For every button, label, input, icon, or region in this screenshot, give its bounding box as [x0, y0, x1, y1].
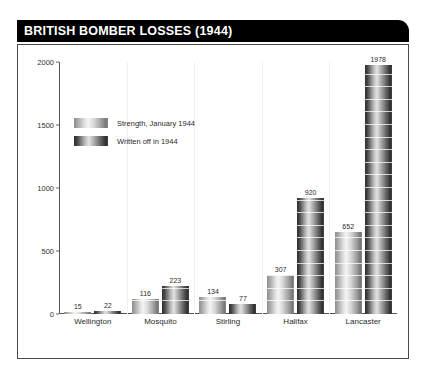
legend-label: Strength, January 1944 [117, 119, 195, 128]
bar-lancaster-series1[interactable] [365, 65, 392, 314]
bar-value-label: 223 [170, 277, 182, 284]
bar-halifax-series1[interactable] [297, 198, 324, 314]
bar-gridline [297, 212, 324, 213]
bar-gridline [297, 300, 324, 301]
bar-gridline [365, 162, 392, 163]
bar-gridline [365, 174, 392, 175]
bar-stirling-series1[interactable] [229, 304, 256, 314]
bar-lancaster-series0[interactable] [335, 232, 362, 314]
bar-gridline [297, 250, 324, 251]
bar-gridline [365, 237, 392, 238]
bar-gridline [335, 300, 362, 301]
bar-gridline [365, 275, 392, 276]
bar-stirling-series0[interactable] [199, 297, 226, 314]
y-axis-tick-label: 1500 [37, 121, 54, 130]
bar-gridline [335, 237, 362, 238]
bar-gridline [365, 99, 392, 100]
bar-column[interactable]: 77 [229, 304, 256, 314]
legend-item[interactable]: Strength, January 1944 [74, 116, 195, 130]
y-axis-tick-label: 500 [41, 247, 54, 256]
bar-column[interactable]: 15 [64, 312, 91, 314]
bar-gridline [365, 200, 392, 201]
bar-gridline [297, 237, 324, 238]
bar-gridline [365, 250, 392, 251]
bar-gridline [267, 288, 294, 289]
bar-group: 13477Stirling [194, 62, 262, 314]
bar-gridline [199, 300, 226, 301]
bar-column[interactable]: 1978 [365, 65, 392, 314]
bar-gridline [297, 263, 324, 264]
bar-gridline [365, 149, 392, 150]
bar-group: 307920Halifax [262, 62, 330, 314]
y-axis-tick-label: 1000 [37, 184, 54, 193]
plot-area: 0500100015002000 1522Wellington116223Mos… [59, 62, 397, 314]
bar-gridline [365, 124, 392, 125]
chart-title-bar: BRITISH BOMBER LOSSES (1944) [17, 20, 409, 42]
bar-gridline [365, 288, 392, 289]
bar-column[interactable]: 116 [132, 299, 159, 314]
bar-group: 1522Wellington [59, 62, 127, 314]
bar-gridline [335, 263, 362, 264]
y-axis-tick-label: 0 [50, 310, 54, 319]
bar-gridline [335, 288, 362, 289]
bar-value-label: 652 [342, 223, 354, 230]
bar-gridline [365, 187, 392, 188]
bar-gridline [267, 275, 294, 276]
bar-gridline [365, 74, 392, 75]
bar-gridline [297, 225, 324, 226]
bar-gridline [297, 200, 324, 201]
bar-value-label: 22 [104, 302, 112, 309]
bar-gridline [365, 111, 392, 112]
bar-value-label: 307 [275, 266, 287, 273]
bar-column[interactable]: 920 [297, 198, 324, 314]
bar-value-label: 1978 [370, 56, 386, 63]
chart-panel: 0500100015002000 1522Wellington116223Mos… [17, 44, 409, 359]
bar-mosquito-series1[interactable] [162, 286, 189, 314]
bar-column[interactable]: 22 [94, 311, 121, 314]
legend-label: Written off in 1944 [117, 137, 178, 146]
bar-gridline [335, 250, 362, 251]
bar-wellington-series1[interactable] [94, 311, 121, 314]
bar-value-label: 116 [140, 290, 151, 297]
bar-gridline [365, 263, 392, 264]
legend-item[interactable]: Written off in 1944 [74, 134, 195, 148]
bar-gridline [297, 275, 324, 276]
bar-group: 116223Mosquito [127, 62, 195, 314]
bar-gridline [162, 288, 189, 289]
bar-wellington-series0[interactable] [64, 312, 91, 314]
bar-value-label: 134 [207, 288, 219, 295]
bar-gridline [365, 86, 392, 87]
bar-halifax-series0[interactable] [267, 275, 294, 314]
bar-gridline [335, 275, 362, 276]
chart-page: BRITISH BOMBER LOSSES (1944) 05001000150… [0, 0, 426, 384]
chart-legend: Strength, January 1944Written off in 194… [74, 116, 195, 152]
bar-column[interactable]: 307 [267, 275, 294, 314]
bar-value-label: 15 [74, 303, 82, 310]
bar-gridline [365, 137, 392, 138]
bar-value-label: 920 [305, 189, 317, 196]
bar-gridline [267, 300, 294, 301]
legend-swatch [74, 118, 108, 128]
bar-gridline [365, 225, 392, 226]
bar-gridline [365, 300, 392, 301]
bar-mosquito-series0[interactable] [132, 299, 159, 314]
page-title: BRITISH BOMBER LOSSES (1944) [24, 24, 232, 38]
bar-gridline [365, 212, 392, 213]
bar-column[interactable]: 652 [335, 232, 362, 314]
bar-group: 6521978Lancaster [329, 62, 397, 314]
bar-column[interactable]: 223 [162, 286, 189, 314]
bar-value-label: 77 [239, 295, 247, 302]
bar-gridline [132, 300, 159, 301]
legend-swatch [74, 136, 108, 146]
bar-gridline [297, 288, 324, 289]
bar-gridline [162, 300, 189, 301]
bar-column[interactable]: 134 [199, 297, 226, 314]
y-axis-tick-label: 2000 [37, 58, 54, 67]
